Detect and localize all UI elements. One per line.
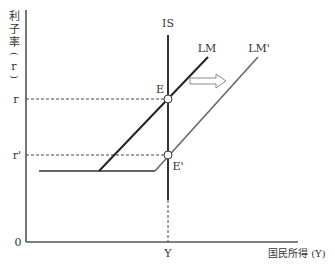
svg-text:(: (	[9, 52, 20, 56]
e-label: E	[156, 83, 164, 96]
r-label: r	[13, 93, 19, 106]
svg-text:): )	[9, 75, 20, 79]
equilibrium-e-prime	[164, 151, 172, 159]
lm-curve	[99, 57, 208, 171]
lm-prime-label: LM'	[248, 42, 270, 55]
y-axis-label: 利 子 率 ( r )	[9, 10, 21, 79]
svg-text:利: 利	[9, 10, 20, 23]
shift-arrow-icon	[190, 74, 226, 88]
y-label: Y	[163, 247, 172, 260]
is-label: IS	[162, 17, 174, 30]
is-lm-diagram: 利 子 率 ( r ) r r' 0 Y 国民所得 (Y) LM LM' IS …	[0, 0, 335, 264]
x-axis-label: 国民所得 (Y)	[268, 248, 326, 259]
equilibrium-e	[164, 95, 172, 103]
lm-label: LM	[198, 42, 217, 55]
svg-text:率: 率	[9, 35, 20, 49]
origin-label: 0	[15, 236, 22, 249]
r-prime-label: r'	[13, 149, 21, 162]
e-prime-label: E'	[172, 160, 183, 173]
svg-text:r: r	[11, 60, 17, 73]
svg-text:子: 子	[9, 23, 20, 36]
